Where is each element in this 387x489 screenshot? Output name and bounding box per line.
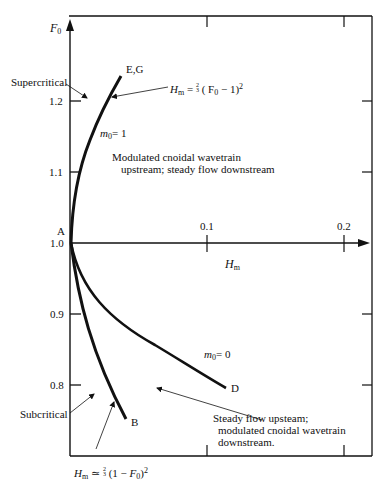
supercritical-label: Supercritical [11, 76, 67, 88]
x-tick-0-2: 0.2 [337, 220, 351, 232]
x-axis-label: Hm [225, 258, 240, 274]
m0-upper-label: m0= 1 [100, 127, 126, 143]
endpoint-eg-label: E,G [126, 63, 143, 75]
y-tick-0-9: 0.9 [50, 308, 64, 320]
x-tick-0-1: 0.1 [200, 220, 214, 232]
origin-label-a: A [57, 225, 65, 237]
subcritical-label: Subcritical [20, 408, 68, 420]
lower-region-line-1: Steady flow upsteam; [213, 412, 308, 424]
upper-region-line-1: Modulated cnoidal wavetrain [112, 151, 241, 163]
formula-upper-arrow [112, 87, 168, 97]
lower-region-line-3: downstream. [218, 436, 275, 448]
supercritical-arrow [66, 84, 87, 98]
m0-lower-label: m0= 0 [204, 348, 230, 364]
lower-region-line-2: modulated cnoidal wavetrain [218, 424, 346, 436]
curve-a-to-d [71, 243, 226, 388]
y-tick-1-0: 1.0 [50, 237, 64, 249]
formula-upper: Hm = 23 ( F0 − 1)2 [170, 81, 243, 99]
y-tick-0-8: 0.8 [50, 379, 64, 391]
y-axis-label: F0 [50, 22, 61, 38]
formula-lower: Hm ≃ 23 (1 − F0)2 [74, 465, 148, 483]
y-tick-1-2: 1.2 [49, 95, 63, 107]
subcritical-arrow [70, 394, 94, 413]
formula-lower-arrow [96, 402, 114, 449]
x-axis [70, 235, 370, 252]
endpoint-d-label: D [231, 382, 239, 394]
upper-region-line-2: upstream; steady flow downstream [121, 163, 275, 175]
y-axis [66, 19, 81, 456]
endpoint-b-label: B [131, 416, 138, 428]
y-tick-1-1: 1.1 [49, 166, 63, 178]
